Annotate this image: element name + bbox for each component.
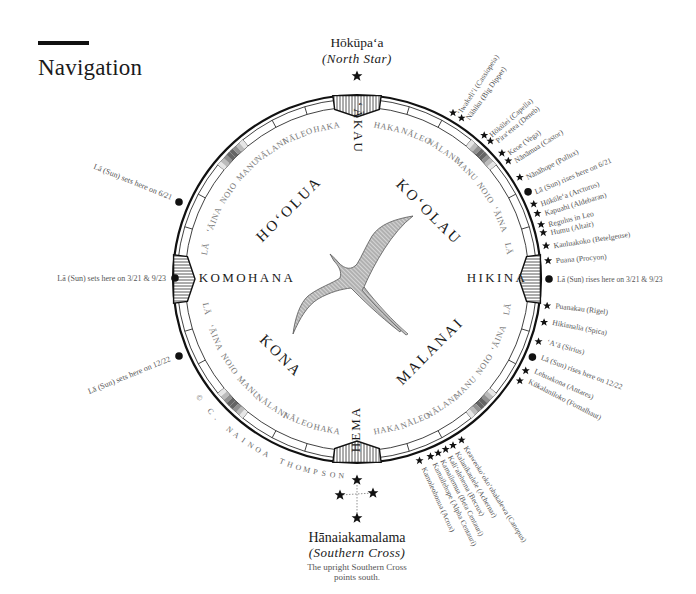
star-icon [539, 229, 547, 237]
sun-west-markers: Lā (Sun) sets here on 6/21 Lā (Sun) sets… [57, 162, 182, 396]
svg-text:O: O [254, 444, 264, 455]
quadrant-sw: KONA [257, 331, 306, 380]
quadrant-se: MALANAI [393, 314, 467, 388]
house-label: NOIO [219, 351, 240, 376]
sun-icon [524, 188, 532, 196]
star-icon [530, 200, 538, 208]
star-icon [449, 441, 457, 449]
star-icon [534, 337, 542, 345]
house-label: NOIO [473, 351, 494, 376]
sun-set-summer-icon [175, 198, 183, 206]
north-star-name: Hōkūpaʻa [330, 35, 383, 50]
star-icon [426, 452, 434, 460]
star-icon [544, 257, 552, 265]
star-icon [522, 367, 530, 375]
southern-cross-note-2: points south. [334, 572, 380, 582]
house-label: HAKA [313, 119, 342, 134]
quadrant-nw: HOʻOLUA [253, 173, 325, 245]
svg-text:N: N [338, 471, 345, 480]
southern-cross-name: Hānaiakamalama [308, 530, 406, 545]
se-star-label: ʻAʻā (Sirius) [546, 337, 586, 357]
north-star-icon [352, 71, 363, 81]
svg-text:.: . [213, 414, 221, 422]
house-label: LĀ [199, 241, 211, 255]
svg-text:P: P [312, 467, 319, 477]
house-label: NĀLEO [399, 410, 432, 431]
svg-text:S: S [321, 469, 327, 479]
svg-text:M: M [302, 465, 311, 475]
star-icon [543, 302, 551, 310]
star-icon [504, 157, 512, 165]
sun-icon [529, 353, 537, 361]
svg-text:H: H [286, 459, 295, 470]
sun-icon [545, 275, 553, 283]
sun-set-winter-label: Lā (Sun) sets here on 12/22 [87, 355, 172, 396]
house-label: NĀLEO [282, 410, 315, 431]
sun-rise-equinox-label: Lā (Sun) rises here on 3/21 & 9/23 [557, 275, 663, 284]
sun-set-summer-label: Lā (Sun) sets here on 6/21 [92, 162, 173, 202]
star-icon [542, 242, 550, 250]
house-label: NĀLEO [281, 125, 314, 146]
star-icon [537, 220, 545, 228]
svg-text:O: O [294, 462, 302, 472]
star-icon [540, 318, 548, 326]
house-label: LĀ [503, 242, 515, 256]
house-label: NOIO [475, 180, 496, 205]
svg-text:T: T [278, 456, 286, 466]
southern-cross-note-1: The upright Southern Cross [307, 562, 407, 572]
house-label: ʻĀINA [490, 205, 510, 234]
svg-text:A: A [261, 449, 270, 460]
cardinal-north: ʻĀKAU [351, 102, 366, 154]
sun-set-equinox-label: Lā (Sun) sets here on 3/21 & 9/23 [57, 274, 166, 283]
southern-cross-english: (Southern Cross) [309, 545, 406, 560]
svg-text:A: A [231, 430, 241, 441]
star-icon [533, 209, 541, 217]
house-label: ʻĀINA [489, 323, 509, 352]
house-label: HAKA [373, 421, 402, 436]
house-label: NOIO [217, 180, 238, 205]
house-label: ʻĀINA [204, 205, 224, 234]
frigate-bird-icon [293, 216, 413, 335]
house-label: NĀLEO [400, 125, 433, 146]
sun-set-winter-icon [175, 352, 183, 360]
north-star-english: (North Star) [322, 51, 392, 66]
house-label: HAKA [313, 421, 342, 436]
star-icon [434, 449, 442, 457]
svg-text:©: © [194, 393, 205, 403]
house-label: LĀ [201, 302, 213, 316]
house-label: LĀ [501, 301, 513, 315]
star-icon [516, 377, 524, 385]
se-star-label: Puanakau (Rigel) [555, 301, 609, 316]
south-star-markers: Keaweokoʻokoʻohakalewa (Canopus)Kalanika… [415, 436, 529, 548]
star-icon [415, 456, 423, 464]
se-star-label: Lā (Sun) rises here on 12/22 [540, 353, 624, 392]
star-icon [458, 436, 466, 444]
quadrant-ne: KOʻOLAU [393, 176, 465, 248]
house-label: ʻĀINA [206, 323, 226, 352]
svg-text:O: O [329, 470, 336, 480]
svg-text:I: I [240, 436, 248, 445]
svg-text:C: C [206, 406, 216, 416]
star-icon [498, 149, 506, 157]
cardinal-east: HIKINA [467, 270, 528, 285]
cardinal-south: HEMA [348, 406, 363, 452]
southern-cross-icon [335, 475, 379, 523]
cardinal-west: KOMOHANA [199, 270, 295, 285]
star-compass-diagram: LĀLĀLĀLĀʻĀINAʻĀINAʻĀINAʻĀINANOIONOIONOIO… [0, 0, 696, 594]
house-label: HAKA [373, 119, 402, 134]
se-star-label: Hikianalia (Spica) [552, 318, 609, 338]
star-icon [516, 173, 524, 181]
star-icon [442, 445, 450, 453]
ne-star-label: Puana (Procyon) [556, 252, 608, 265]
sun-set-equinox-icon [171, 274, 179, 282]
